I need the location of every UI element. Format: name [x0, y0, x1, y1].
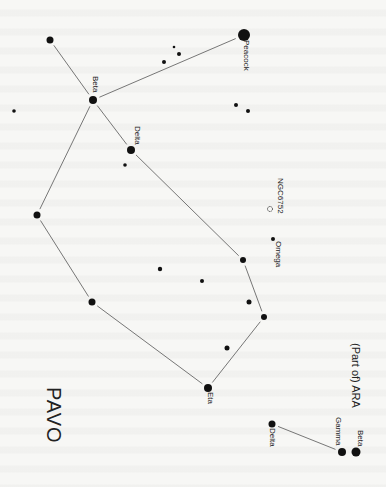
- constellation-title: PAVO: [44, 387, 64, 444]
- constellation-line: [54, 45, 89, 94]
- label-ngc6752: NGC6752: [276, 178, 284, 214]
- star-far-left: [12, 109, 16, 113]
- star-center-small-2: [200, 279, 204, 283]
- star-beta-pavo: [89, 96, 97, 104]
- star-right-small: [247, 300, 252, 305]
- star-center-small: [158, 267, 162, 271]
- star-beta-ara: [352, 448, 361, 457]
- constellation-line: [278, 426, 335, 449]
- star-delta-ara: [269, 421, 276, 428]
- star-mid-right-1: [234, 103, 238, 107]
- constellation-line: [97, 106, 127, 145]
- label-beta-ara: Beta: [356, 430, 364, 446]
- constellation-line: [40, 106, 90, 209]
- star-cluster-3: [162, 60, 166, 64]
- label-beta-pavo: Beta: [91, 76, 99, 92]
- label-omega: Omega: [274, 241, 282, 267]
- star-eta-pavo: [204, 384, 212, 392]
- star-small-below-delta: [123, 163, 127, 167]
- star-left-1: [34, 212, 41, 219]
- star-mid-right-2: [246, 109, 250, 113]
- star-chart: Peacock Beta Delta NGC6752 Omega Eta Del…: [0, 0, 386, 487]
- star-cluster-2: [177, 52, 181, 56]
- constellation-line: [212, 322, 260, 383]
- label-eta: Eta: [206, 392, 214, 404]
- label-delta-pavo: Delta: [133, 126, 141, 145]
- constellation-line: [245, 266, 262, 312]
- star-gamma-ara: [338, 448, 346, 456]
- constellation-line: [97, 306, 202, 384]
- constellation-line: [99, 39, 235, 98]
- star-delta-pavo: [127, 146, 135, 154]
- star-lower-small: [225, 346, 230, 351]
- label-ara-constellation: (Part of) ARA: [350, 343, 361, 408]
- star-right-chain-1: [240, 257, 246, 263]
- constellation-line: [136, 155, 239, 256]
- label-gamma-ara: Gamma: [334, 417, 342, 445]
- globular-cluster-icon: [268, 207, 273, 212]
- constellation-line: [40, 220, 88, 296]
- star-right-chain-2: [261, 314, 267, 320]
- star-cluster-1: [173, 46, 176, 49]
- label-peacock: Peacock: [242, 40, 250, 71]
- label-delta-ara: Delta: [268, 428, 276, 447]
- star-left-2: [89, 299, 96, 306]
- star-top-left: [47, 37, 54, 44]
